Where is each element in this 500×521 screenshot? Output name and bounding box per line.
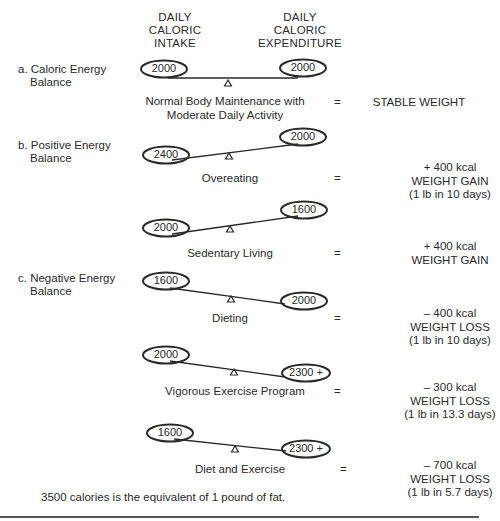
expenditure-value: 2000 (280, 61, 326, 73)
intake-value: 1600 (143, 274, 189, 286)
equals-sign: = (340, 463, 347, 475)
intake-value: 2000 (143, 348, 189, 360)
result-rate: (1 lb in 5.7 days) (390, 486, 500, 500)
scenario-caption: Overeating (130, 172, 330, 186)
result-kcal: + 400 kcal (390, 161, 500, 175)
intake-value: 2000 (143, 221, 189, 233)
caption-line: Moderate Daily Activity (130, 109, 320, 123)
intake-value: 1600 (147, 426, 193, 438)
scenario-caption: Diet and Exercise (130, 463, 350, 477)
caption-line: Normal Body Maintenance with (130, 95, 320, 109)
result-rate: (1 lb in 13.3 days) (390, 408, 500, 422)
expenditure-value: 2300 + (282, 366, 330, 378)
result-kcal: + 400 kcal (390, 240, 500, 254)
result-rate: (1 lb in 10 days) (390, 334, 500, 348)
result-kcal: – 700 kcal (390, 459, 500, 473)
bottom-rule (0, 516, 479, 518)
result-outcome: WEIGHT GAIN (390, 254, 500, 268)
scenario-caption: Normal Body Maintenance with Moderate Da… (130, 95, 320, 122)
result-overeating: + 400 kcal WEIGHT GAIN (1 lb in 10 days) (390, 161, 500, 202)
result-kcal: – 300 kcal (390, 381, 500, 395)
expenditure-value: 2300 + (282, 442, 330, 454)
equals-sign: = (334, 96, 341, 108)
scenario-caption: Vigorous Exercise Program (130, 385, 340, 399)
expenditure-value: 1600 (281, 203, 327, 215)
scenario-caption: Sedentary Living (130, 247, 330, 261)
expenditure-value: 2000 (280, 130, 326, 142)
result-vigorous: – 300 kcal WEIGHT LOSS (1 lb in 13.3 day… (390, 381, 500, 422)
result-outcome: WEIGHT LOSS (390, 395, 500, 409)
result-stable-weight: STABLE WEIGHT (359, 96, 479, 110)
equals-sign: = (334, 247, 341, 259)
equals-sign: = (334, 385, 341, 397)
result-sedentary: + 400 kcal WEIGHT GAIN (390, 240, 500, 267)
scenario-caption: Dieting (130, 312, 330, 326)
result-dieting: – 400 kcal WEIGHT LOSS (1 lb in 10 days) (390, 307, 500, 348)
result-outcome: WEIGHT LOSS (390, 473, 500, 487)
result-outcome: WEIGHT GAIN (390, 175, 500, 189)
result-diet-exercise: – 700 kcal WEIGHT LOSS (1 lb in 5.7 days… (390, 459, 500, 500)
intake-value: 2000 (141, 62, 187, 74)
intake-value: 2400 (143, 148, 189, 160)
expenditure-value: 2000 (281, 294, 327, 306)
result-outcome: WEIGHT LOSS (390, 321, 500, 335)
result-rate: (1 lb in 10 days) (390, 188, 500, 202)
footnote: 3500 calories is the equivalent of 1 pou… (41, 491, 285, 503)
equals-sign: = (334, 172, 341, 184)
result-kcal: – 400 kcal (390, 307, 500, 321)
equals-sign: = (334, 312, 341, 324)
